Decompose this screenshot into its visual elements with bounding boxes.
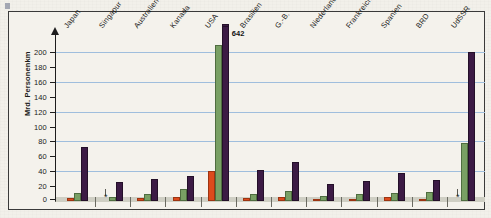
bar-series-1 — [313, 199, 320, 201]
bar-series-3 — [81, 147, 88, 201]
category-label: USA — [203, 12, 220, 30]
bars — [313, 34, 334, 201]
bar-series-3 — [398, 173, 405, 201]
bar-series-2 — [285, 191, 292, 201]
y-tick-label-200: 200 — [34, 48, 47, 57]
bar-series-2 — [180, 189, 187, 201]
y-tick-label-40: 40 — [38, 167, 47, 176]
y-axis-line — [55, 34, 56, 201]
category-label: Japan — [62, 8, 82, 30]
bars — [243, 34, 264, 201]
y-tick-label-0: 0 — [43, 195, 47, 204]
bar-series-2 — [250, 194, 257, 201]
no-data-marker — [102, 34, 109, 201]
bars — [384, 34, 405, 201]
bar-series-2 — [74, 193, 81, 201]
bars — [67, 34, 88, 201]
bar-series-2 — [144, 194, 151, 201]
group-separator — [271, 197, 272, 207]
bar-series-3 — [187, 176, 194, 201]
bar-series-1 — [208, 171, 215, 201]
bar-series-3 — [433, 180, 440, 201]
bars — [137, 34, 158, 201]
bar-series-2 — [461, 143, 468, 201]
y-axis-arrow-icon — [51, 27, 59, 35]
y-tick-label-60: 60 — [38, 152, 47, 161]
y-tick-label-80: 80 — [38, 137, 47, 146]
bar-series-1 — [137, 198, 144, 201]
y-tick-120 — [50, 112, 55, 113]
group-separator — [341, 197, 342, 207]
bar-series-3 — [222, 24, 229, 201]
y-axis-title: Mrd. Personenkm — [23, 52, 32, 116]
bar-series-1 — [278, 197, 285, 201]
y-tick-200 — [50, 52, 55, 53]
y-tick-label-140: 140 — [34, 92, 47, 101]
category-label: Singapur — [97, 0, 124, 30]
no-data-marker — [454, 34, 461, 201]
category-label: Australien — [132, 0, 161, 30]
y-tick-label-20: 20 — [38, 182, 47, 191]
bar-series-1 — [243, 198, 250, 201]
category-label: Frankreich — [344, 0, 374, 30]
y-tick-label-180: 180 — [34, 62, 47, 71]
bars — [419, 34, 440, 201]
category-label: BRD — [414, 12, 431, 30]
group-separator — [377, 197, 378, 207]
y-tick-40 — [50, 171, 55, 172]
bar-truncation-cap — [222, 24, 229, 27]
bar-series-1 — [419, 199, 426, 201]
group-separator — [306, 197, 307, 207]
bar-series-3 — [257, 170, 264, 201]
y-tick-0 — [50, 199, 55, 200]
bars — [173, 34, 194, 201]
category-label: Brasilien — [238, 0, 264, 30]
bar-series-3 — [292, 162, 299, 201]
category-label: Niederlande — [308, 0, 341, 30]
y-tick-label-100: 100 — [34, 122, 47, 131]
bar-series-2 — [109, 197, 116, 201]
bar-series-3 — [116, 182, 123, 201]
bar-series-2 — [391, 193, 398, 201]
bars — [102, 34, 123, 201]
y-tick-80 — [50, 141, 55, 142]
y-tick-label-160: 160 — [34, 77, 47, 86]
y-tick-60 — [50, 156, 55, 157]
group-separator — [412, 197, 413, 207]
y-tick-label-120: 120 — [34, 107, 47, 116]
category-label: Kanada — [168, 3, 192, 30]
y-tick-100 — [50, 127, 55, 128]
bar-series-1 — [384, 197, 391, 201]
bars — [208, 34, 229, 201]
y-tick-180 — [50, 67, 55, 68]
y-tick-160 — [50, 82, 55, 83]
group-separator — [130, 197, 131, 207]
bar-series-1 — [173, 197, 180, 201]
bar-series-1 — [67, 198, 74, 201]
bars — [349, 34, 370, 201]
group-separator — [95, 197, 96, 207]
bars — [278, 34, 299, 201]
bar-series-2 — [356, 194, 363, 201]
y-tick-20 — [50, 186, 55, 187]
group-separator — [165, 197, 166, 207]
bar-series-3 — [468, 52, 475, 201]
bar-series-2 — [426, 192, 433, 201]
bar-series-1 — [349, 199, 356, 201]
group-separator — [201, 197, 202, 207]
y-tick-140 — [50, 97, 55, 98]
bar-series-3 — [151, 179, 158, 201]
category-label: Spanien — [379, 2, 404, 30]
group-separator — [236, 197, 237, 207]
bar-series-3 — [363, 181, 370, 201]
category-label: UdSSR — [449, 4, 472, 30]
category-label: G.-B. — [273, 10, 291, 30]
group-separator — [447, 197, 448, 207]
chart-page: Mrd. Personenkm 020406080100120140160180… — [0, 0, 491, 218]
corner-registration-mark — [5, 3, 10, 9]
bar-series-3 — [327, 184, 334, 201]
plot-area: Mrd. Personenkm 020406080100120140160180… — [55, 34, 487, 218]
chart-frame: Mrd. Personenkm 020406080100120140160180… — [8, 11, 485, 210]
bars — [454, 34, 475, 201]
bar-series-2 — [215, 45, 222, 201]
